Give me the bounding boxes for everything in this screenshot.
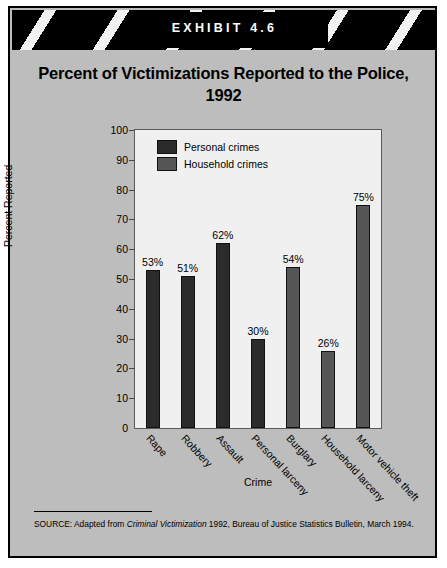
x-axis-tick-label: Robbery: [179, 432, 215, 469]
bar: [356, 205, 370, 429]
x-axis-tick-label: Rape: [144, 432, 170, 459]
y-axis-tick-mark: [129, 309, 135, 310]
bar-column: 26%Household larceny: [321, 351, 335, 428]
exhibit-figure: EXHIBIT 4.6 Percent of Victimizations Re…: [8, 6, 437, 558]
bar-column: 51%Robbery: [181, 276, 195, 428]
bar: [251, 339, 265, 428]
x-axis-tick-label: Burglary: [284, 432, 319, 469]
bar-chart: Percent Reported 0102030405060708090100 …: [10, 112, 435, 502]
y-axis-tick-label: 0: [82, 422, 135, 434]
x-axis-tick-label: Household larceny: [320, 432, 388, 504]
y-axis-tick-label: 10: [82, 392, 135, 404]
exhibit-banner: EXHIBIT 4.6: [12, 10, 437, 50]
bar: [321, 351, 335, 428]
y-axis-tick-mark: [129, 130, 135, 131]
source-note: SOURCE: Adapted from Criminal Victimizat…: [34, 518, 416, 530]
y-axis-label: Percent Reported: [2, 165, 14, 247]
legend-swatch: [157, 157, 177, 171]
y-axis-tick-label: 100: [82, 124, 135, 136]
source-prefix: SOURCE: Adapted from: [34, 519, 127, 529]
y-axis-tick-label: 20: [82, 362, 135, 374]
legend-label: Personal crimes: [184, 141, 259, 153]
y-axis-tick-mark: [129, 279, 135, 280]
y-axis-tick-mark: [129, 398, 135, 399]
y-axis-tick-label: 80: [82, 184, 135, 196]
bar-column: 54%Burglary: [286, 267, 300, 428]
legend-item: Household crimes: [157, 157, 268, 171]
bar: [146, 270, 160, 428]
x-axis-tick-label: Assault: [214, 432, 246, 465]
bar-column: 53%Rape: [146, 270, 160, 428]
y-axis-tick-label: 50: [82, 273, 135, 285]
bar-value-label: 54%: [283, 253, 304, 265]
y-axis-tick-mark: [129, 339, 135, 340]
y-axis-tick-mark: [129, 190, 135, 191]
source-rule: [34, 511, 152, 512]
y-axis-tick-mark: [129, 368, 135, 369]
exhibit-number-label: EXHIBIT 4.6: [12, 21, 437, 35]
bar-column: 75%Motor vehicle theft: [356, 205, 370, 429]
y-axis-tick-label: 90: [82, 154, 135, 166]
bar-value-label: 30%: [247, 325, 268, 337]
bar-value-label: 26%: [318, 337, 339, 349]
bar: [286, 267, 300, 428]
bar: [181, 276, 195, 428]
bar-value-label: 51%: [177, 262, 198, 274]
y-axis-tick-mark: [129, 249, 135, 250]
bar-value-label: 62%: [212, 229, 233, 241]
y-axis-tick-label: 60: [82, 243, 135, 255]
x-axis-tick-label: Motor vehicle theft: [355, 432, 422, 503]
y-axis-tick-label: 30: [82, 333, 135, 345]
source-title-italic: Criminal Victimization: [127, 519, 207, 529]
legend-item: Personal crimes: [157, 140, 268, 154]
plot-area: 0102030405060708090100 Personal crimesHo…: [134, 129, 382, 429]
source-suffix: 1992, Bureau of Justice Statistics Bulle…: [207, 519, 414, 529]
bar-value-label: 53%: [142, 256, 163, 268]
page-title: Percent of Victimizations Reported to th…: [24, 63, 423, 107]
y-axis-tick-mark: [129, 219, 135, 220]
chart-legend: Personal crimesHousehold crimes: [157, 140, 268, 174]
y-axis-tick-label: 70: [82, 213, 135, 225]
bar-column: 62%Assault: [216, 243, 230, 428]
x-axis-label: Crime: [134, 476, 382, 488]
y-axis-tick-label: 40: [82, 303, 135, 315]
bar-value-label: 75%: [353, 191, 374, 203]
legend-swatch: [157, 140, 177, 154]
bar: [216, 243, 230, 428]
y-axis-tick-mark: [129, 160, 135, 161]
legend-label: Household crimes: [184, 158, 268, 170]
bar-column: 30%Personal larceny: [251, 339, 265, 428]
